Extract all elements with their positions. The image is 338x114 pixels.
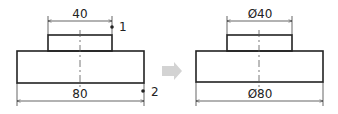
marker-label-1: 1 <box>119 20 127 34</box>
drawing: 40 80 1 2 Ø40 Ø80 <box>0 0 338 114</box>
diagram-canvas: 40 80 1 2 Ø40 Ø80 <box>0 0 338 114</box>
left-bottom-dimension-label: 80 <box>72 87 87 101</box>
right-top-dimension-label: Ø40 <box>248 7 273 21</box>
right-top-step <box>227 35 292 51</box>
marker-label-2: 2 <box>151 85 159 99</box>
right-part-drawing: Ø40 Ø80 <box>196 7 323 106</box>
transform-arrow-icon <box>162 62 182 80</box>
left-part-drawing: 40 80 1 2 <box>17 7 159 106</box>
left-top-dimension-label: 40 <box>72 7 87 21</box>
right-base <box>196 51 323 82</box>
left-base <box>17 51 144 83</box>
right-bottom-dimension-label: Ø80 <box>248 87 273 101</box>
marker-dot-2 <box>141 89 145 93</box>
marker-dot-1 <box>110 25 114 29</box>
